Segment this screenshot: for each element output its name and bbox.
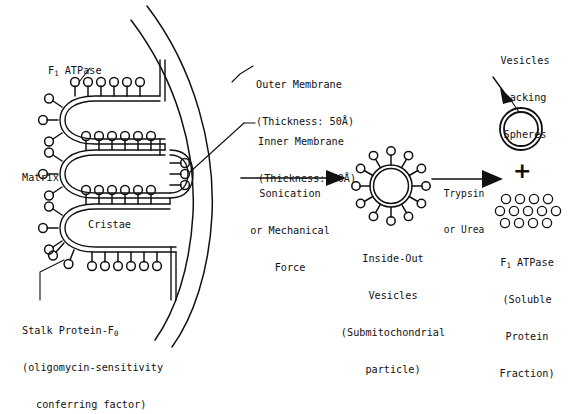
soluble-f1-line-1: F1 ATPase — [477, 257, 577, 269]
stalk-protein-line-2: (oligomycin-sensitivity — [22, 362, 163, 374]
label-matrix: Matrix — [22, 172, 59, 184]
vesicle-caption-line-1: Inside-Out — [330, 253, 456, 265]
leader-outer-membrane — [232, 66, 253, 82]
f1-sphere-row-top-2 — [82, 132, 156, 150]
label-cristae: Cristae — [88, 219, 131, 231]
vesicles-lacking-line-2: Lacking — [485, 92, 565, 104]
sonication-line-3: Force — [238, 262, 342, 274]
inner-membrane-line-1: Inner Membrane — [258, 136, 356, 148]
f1-sphere-bend-3 — [39, 202, 62, 254]
free-f1-spheres — [495, 194, 560, 227]
trypsin-line-1: Trypsin — [436, 188, 492, 200]
sonication-line-1: Sonication — [238, 188, 342, 200]
f1-sphere-bend-1 — [39, 94, 62, 146]
f1-sphere-row-top-3 — [82, 186, 156, 204]
leader-inner-membrane — [190, 123, 244, 172]
soluble-f1-line-4: Fraction) — [477, 368, 577, 380]
outer-membrane-line-1: Outer Membrane — [256, 79, 354, 91]
caption-soluble-f1-atpase: F1 ATPase (Soluble Protein Fraction) — [477, 232, 577, 406]
sonication-line-2: or Mechanical — [238, 225, 342, 237]
f1-sphere-row-top-1 — [71, 78, 145, 96]
soluble-f1-line-2: (Soluble — [477, 294, 577, 306]
vesicle-caption-line-4: particle) — [330, 364, 456, 376]
outer-membrane-arc — [147, 6, 212, 347]
inside-out-vesicle — [352, 147, 430, 225]
caption-inside-out-vesicles: Inside-Out Vesicles (Submitochondrial pa… — [330, 228, 456, 402]
vesicle-caption-line-2: Vesicles — [330, 290, 456, 302]
caption-vesicles-lacking-spheres: Vesicles Lacking Spheres — [485, 30, 565, 166]
label-f1-atpase-left: F1 ATPase — [48, 65, 102, 77]
soluble-f1-line-3: Protein — [477, 331, 577, 343]
vesicle-caption-line-3: (Submitochondrial — [330, 327, 456, 339]
vesicles-lacking-line-3: Spheres — [485, 129, 565, 141]
label-sonication: Sonication or Mechanical Force — [238, 163, 342, 299]
f1-sphere-cap-right — [170, 159, 189, 190]
stalk-protein-line-3: conferring factor) — [22, 399, 163, 411]
leader-stalk-protein — [40, 260, 64, 300]
vesicles-lacking-line-1: Vesicles — [485, 55, 565, 67]
f1-sphere-row-bottom — [88, 252, 162, 270]
caption-stalk-protein: Stalk Protein-F0 (oligomycin-sensitivity… — [22, 300, 163, 414]
stalk-protein-line-1: Stalk Protein-F0 — [22, 325, 163, 337]
